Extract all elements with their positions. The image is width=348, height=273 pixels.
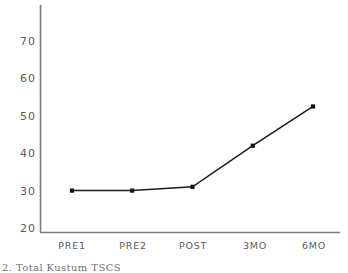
data-point-3mo — [251, 144, 255, 148]
ytick-label-30: 30 — [10, 185, 36, 198]
xtick-label-pre1: PRE1 — [42, 240, 102, 251]
xtick-label-3mo: 3MO — [225, 240, 285, 251]
ytick-label-20: 20 — [10, 222, 36, 235]
data-point-post — [190, 185, 194, 189]
figure-caption: 2. Total Kustum TSCS — [2, 262, 121, 273]
data-point-pre2 — [130, 189, 134, 193]
xtick-label-6mo: 6MO — [284, 240, 344, 251]
data-point-markers — [70, 104, 315, 192]
chart-plot-area — [0, 0, 348, 273]
ytick-label-40: 40 — [10, 147, 36, 160]
ytick-label-60: 60 — [10, 72, 36, 85]
data-point-pre1 — [70, 189, 74, 193]
ytick-label-50: 50 — [10, 110, 36, 123]
data-line-series — [72, 106, 313, 190]
data-point-6mo — [311, 104, 315, 108]
chart-figure: 70 60 50 40 30 20 PRE1 PRE2 POST 3MO 6MO… — [0, 0, 348, 273]
xtick-label-pre2: PRE2 — [103, 240, 163, 251]
ytick-label-70: 70 — [10, 35, 36, 48]
xtick-label-post: POST — [163, 240, 223, 251]
